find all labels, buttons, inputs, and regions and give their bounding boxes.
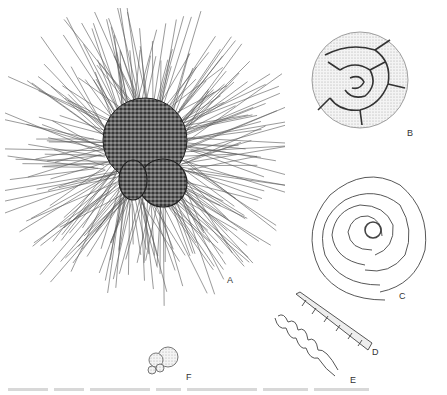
label-f: F bbox=[186, 372, 192, 382]
label-d: D bbox=[372, 347, 379, 357]
label-e: E bbox=[350, 375, 356, 385]
label-b: B bbox=[407, 128, 413, 138]
label-a: A bbox=[227, 275, 233, 285]
illustration-plate bbox=[0, 0, 447, 395]
specimen-a-body bbox=[103, 98, 187, 207]
label-c: C bbox=[399, 291, 406, 301]
figure-caption-truncated bbox=[8, 388, 438, 395]
specimen-d bbox=[296, 292, 372, 350]
specimen-b bbox=[312, 32, 408, 128]
specimen-e bbox=[275, 315, 338, 376]
specimen-f bbox=[148, 347, 178, 374]
specimen-c bbox=[312, 177, 426, 300]
